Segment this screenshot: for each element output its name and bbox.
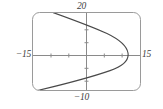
graph-figure: 20 −10 −15 15 bbox=[0, 0, 163, 109]
ymin-label: −10 bbox=[0, 92, 163, 102]
xmax-label: 15 bbox=[142, 49, 163, 59]
xmin-label: −15 bbox=[2, 49, 31, 59]
ymax-label: 20 bbox=[0, 1, 163, 11]
curve-sideways-parabola bbox=[33, 5, 128, 91]
